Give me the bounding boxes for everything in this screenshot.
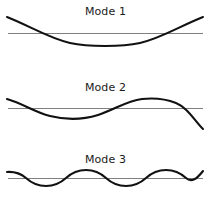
mode-panel-3: Mode 3 — [0, 140, 211, 209]
mode-3-title: Mode 3 — [0, 154, 211, 166]
mode-panel-2: Mode 2 — [0, 68, 211, 140]
mode-2-plot — [0, 68, 211, 140]
mode-1-title: Mode 1 — [0, 6, 211, 18]
mode-panel-1: Mode 1 — [0, 0, 211, 68]
mode-2-title: Mode 2 — [0, 82, 211, 94]
mode-shapes-figure: Mode 1 Mode 2 Mode 3 — [0, 0, 211, 209]
mode-1-curve — [7, 17, 203, 46]
mode-2-curve — [7, 98, 203, 129]
mode-3-plot — [0, 140, 211, 209]
